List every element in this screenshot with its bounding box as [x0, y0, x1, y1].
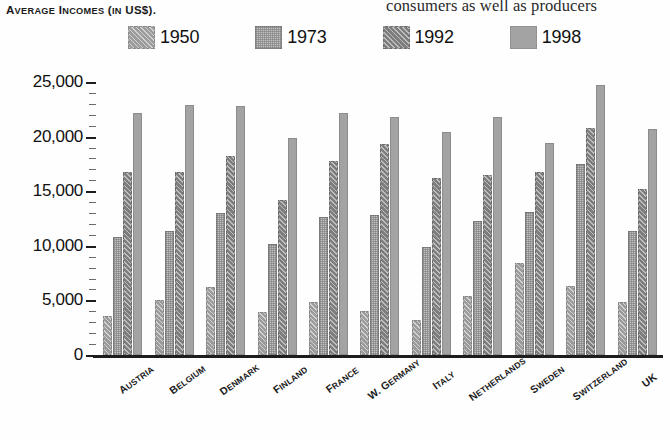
legend-item-1992: 1992	[383, 26, 454, 49]
y-axis-major-tick	[86, 246, 96, 248]
bar	[185, 105, 194, 355]
legend-label-1992: 1992	[415, 27, 454, 48]
legend-item-1973: 1973	[255, 26, 326, 49]
y-axis-minor-tick	[89, 158, 96, 159]
bar-group	[612, 82, 663, 355]
bar	[370, 215, 379, 355]
bar	[638, 189, 647, 355]
bar-group	[148, 82, 199, 355]
y-axis-tick-label: 25,000	[33, 72, 83, 92]
bar	[319, 217, 328, 355]
bar-groups	[97, 82, 663, 355]
legend-swatch-1973-icon	[255, 26, 282, 49]
y-axis-minor-tick	[89, 148, 96, 149]
bar	[442, 132, 451, 355]
y-axis-minor-tick	[89, 202, 96, 203]
bar	[566, 286, 575, 355]
y-axis-major-tick	[86, 137, 96, 139]
y-axis-tick-label: 20,000	[33, 126, 83, 146]
x-axis-tick-label: UK	[640, 370, 660, 389]
bar-group	[200, 82, 251, 355]
y-axis-minor-tick	[89, 235, 96, 236]
bar	[618, 302, 627, 356]
bar	[175, 172, 184, 355]
bar	[258, 312, 267, 355]
x-axis-label-cell: UK	[612, 358, 663, 440]
y-axis-minor-tick	[89, 169, 96, 170]
bar	[545, 143, 554, 355]
x-axis-label-cell: AUSTRIA	[97, 358, 148, 440]
y-axis-minor-tick	[89, 344, 96, 345]
bar-group	[406, 82, 457, 355]
legend-swatch-1950-icon	[128, 26, 155, 49]
bar	[493, 117, 502, 355]
bar-group	[354, 82, 405, 355]
legend-swatch-1992-icon	[383, 26, 410, 49]
y-axis-minor-tick	[89, 93, 96, 94]
x-axis-label-cell: DENMARK	[200, 358, 251, 440]
bar	[268, 244, 277, 355]
x-axis-label-cell: SWITZERLAND	[560, 358, 611, 440]
bar	[422, 247, 431, 355]
y-axis-major-tick	[86, 191, 96, 193]
y-axis-minor-tick	[89, 311, 96, 312]
y-axis-minor-tick	[89, 257, 96, 258]
bar	[339, 113, 348, 355]
bar	[463, 296, 472, 355]
y-axis-minor-tick	[89, 104, 96, 105]
x-axis-tick-label: ITALY	[431, 368, 458, 392]
bar	[288, 138, 297, 355]
y-axis-minor-tick	[89, 180, 96, 181]
bar-group	[509, 82, 560, 355]
chart-title: AVERAGE INCOMES (IN US$).	[6, 4, 156, 16]
x-axis-label-cell: SWEDEN	[509, 358, 560, 440]
x-axis-label-cell: FINLAND	[251, 358, 302, 440]
adjacent-column-text: consumers as well as producers	[386, 0, 597, 16]
bar	[329, 161, 338, 355]
bar-group	[560, 82, 611, 355]
legend-label-1998: 1998	[542, 27, 581, 48]
y-axis-minor-tick	[89, 213, 96, 214]
y-axis-major-tick	[86, 300, 96, 302]
bar	[390, 117, 399, 355]
bar	[596, 85, 605, 355]
bar-group	[457, 82, 508, 355]
bar-group	[251, 82, 302, 355]
bar	[576, 164, 585, 355]
legend-swatch-1998-icon	[510, 26, 537, 49]
bar	[648, 129, 657, 355]
x-axis-label-cell: W. GERMANY	[354, 358, 405, 440]
legend-item-1998: 1998	[510, 26, 581, 49]
bar	[309, 302, 318, 356]
bar	[483, 175, 492, 355]
bar	[380, 144, 389, 355]
bar	[360, 311, 369, 355]
bar	[226, 156, 235, 355]
y-axis-minor-tick	[89, 115, 96, 116]
bar	[155, 300, 164, 355]
y-axis-tick-label: 0	[74, 345, 83, 365]
y-axis-minor-tick	[89, 322, 96, 323]
bar	[165, 231, 174, 355]
bar	[412, 320, 421, 355]
bar	[123, 172, 132, 355]
y-axis-minor-tick	[89, 279, 96, 280]
x-axis-label-cell: FRANCE	[303, 358, 354, 440]
chart-legend: 1950 1973 1992 1998	[128, 26, 581, 49]
bar	[515, 263, 524, 355]
bar	[216, 213, 225, 355]
chart-title-text: AVERAGE INCOMES (IN US$).	[6, 4, 156, 16]
y-axis-minor-tick	[89, 126, 96, 127]
y-axis-minor-tick	[89, 224, 96, 225]
legend-label-1973: 1973	[287, 27, 326, 48]
legend-label-1950: 1950	[160, 27, 199, 48]
bar	[236, 106, 245, 355]
bar-group	[303, 82, 354, 355]
bar	[432, 178, 441, 355]
bar	[586, 128, 595, 355]
y-axis-minor-tick	[89, 268, 96, 269]
y-axis-major-tick	[86, 82, 96, 84]
bar	[113, 237, 122, 355]
y-axis-tick-label: 5,000	[42, 290, 83, 310]
bar	[628, 231, 637, 355]
